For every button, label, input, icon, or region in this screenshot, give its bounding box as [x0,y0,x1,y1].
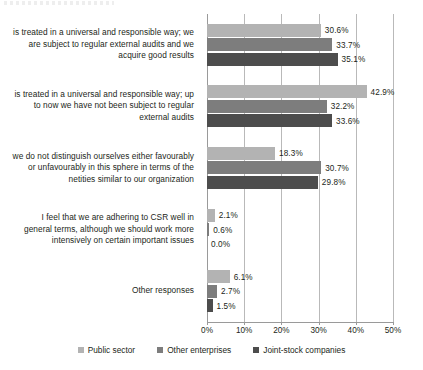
bar-value-label: 30.7% [325,163,349,172]
bar-row: 2.1% [207,209,393,222]
bar[interactable] [207,209,215,222]
x-tick [207,322,208,325]
x-tick-label: 10% [236,326,252,335]
category-label: is treated in a universal and responsibl… [12,89,194,124]
x-tick [393,322,394,325]
bar[interactable] [207,53,338,66]
bar-group: 18.3%30.7%29.8% [207,137,393,199]
x-tick [319,322,320,325]
bar-row: 0.0% [207,238,393,251]
chart-legend: Public sectorOther enterprisesJoint-stoc… [0,345,423,355]
category-label: is treated in a universal and responsibl… [12,27,194,62]
bar[interactable] [207,85,367,98]
bar-value-label: 32.2% [331,102,355,111]
bar-row: 18.3% [207,147,393,160]
category-label: Other responses [12,285,194,297]
legend-swatch-icon [253,347,259,353]
x-tick-label: 20% [273,326,289,335]
bar[interactable] [207,38,332,51]
bar-row: 32.2% [207,100,393,113]
bar[interactable] [207,161,321,174]
bar[interactable] [207,147,275,160]
plot-area: 30.6%33.7%35.1%42.9%32.2%33.6%18.3%30.7%… [207,14,393,322]
bar-value-label: 0.0% [211,240,230,249]
bar[interactable] [207,285,217,298]
bar-row: 30.7% [207,161,393,174]
x-tick [244,322,245,325]
x-tick-label: 50% [385,326,401,335]
legend-label: Joint-stock companies [263,345,345,355]
x-tick-label: 40% [348,326,364,335]
bar-row: 33.6% [207,114,393,127]
bar[interactable] [207,114,332,127]
legend-swatch-icon [78,347,84,353]
legend-item[interactable]: Joint-stock companies [253,345,345,355]
legend-item[interactable]: Public sector [78,345,136,355]
bar-value-label: 2.1% [219,211,238,220]
x-tick-label: 30% [310,326,326,335]
bar[interactable] [207,299,213,312]
bar-row: 42.9% [207,85,393,98]
bar[interactable] [207,223,209,236]
legend-label: Public sector [88,345,136,355]
x-tick [281,322,282,325]
bar-group: 42.9%32.2%33.6% [207,76,393,138]
bar[interactable] [207,100,327,113]
bar-row: 33.7% [207,38,393,51]
bar-group: 6.1%2.7%1.5% [207,260,393,322]
bar-value-label: 6.1% [234,272,253,281]
bar-value-label: 33.6% [336,116,360,125]
bar-value-label: 0.6% [213,225,232,234]
bar[interactable] [207,24,321,37]
x-tick-label: 0% [201,326,213,335]
bar-value-label: 1.5% [217,301,236,310]
bar-value-label: 33.7% [336,40,360,49]
category-label: I feel that we are adhering to CSR well … [12,212,194,247]
bar-row: 29.8% [207,176,393,189]
bar-value-label: 18.3% [279,149,303,158]
bar-row: 30.6% [207,24,393,37]
category-axis-labels: is treated in a universal and responsibl… [0,14,200,322]
category-label: we do not distinguish ourselves either f… [12,151,194,186]
legend-item[interactable]: Other enterprises [157,345,231,355]
bar-value-label: 30.6% [325,26,349,35]
bar-row: 6.1% [207,270,393,283]
bar-row: 35.1% [207,53,393,66]
grouped-bar-chart: is treated in a universal and responsibl… [0,0,423,370]
bar-group: 30.6%33.7%35.1% [207,14,393,76]
bar-group: 2.1%0.6%0.0% [207,199,393,261]
gridline-50% [393,14,394,322]
legend-swatch-icon [157,347,163,353]
bar-value-label: 29.8% [322,178,346,187]
x-axis-ticks: 0%10%20%30%40%50% [207,322,393,338]
bar-value-label: 42.9% [371,87,395,96]
bar[interactable] [207,270,230,283]
bar-row: 0.6% [207,223,393,236]
bar-row: 1.5% [207,299,393,312]
bar-value-label: 2.7% [221,287,240,296]
x-tick [356,322,357,325]
bar[interactable] [207,176,318,189]
bar-value-label: 35.1% [342,55,366,64]
bar-row: 2.7% [207,285,393,298]
legend-label: Other enterprises [167,345,231,355]
